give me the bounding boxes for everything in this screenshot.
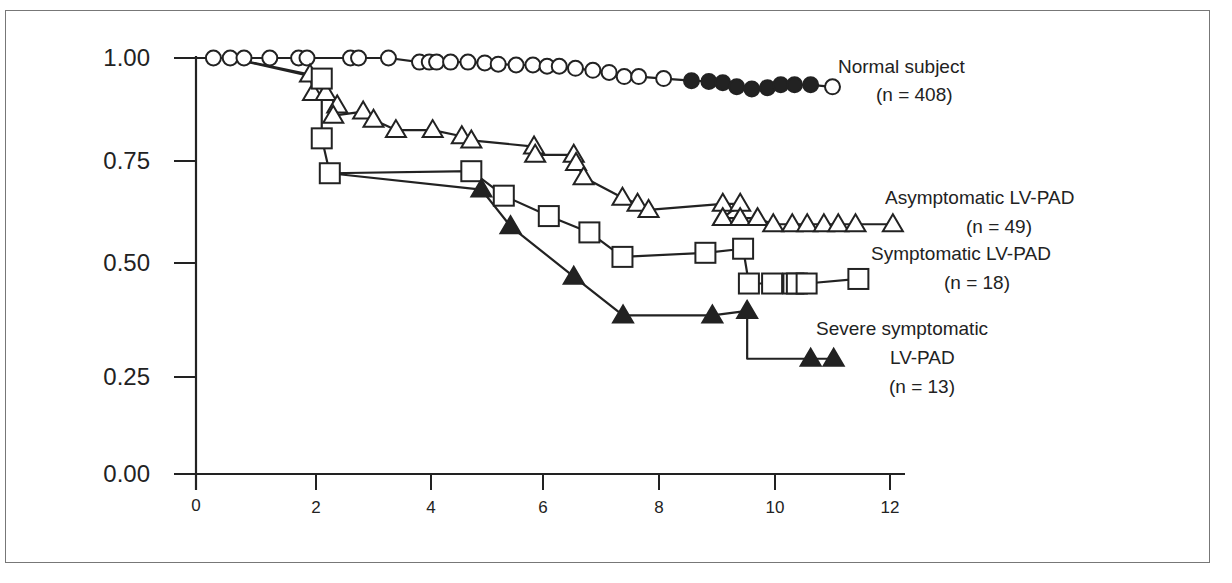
label-severe-n: (n = 13) bbox=[889, 376, 955, 398]
open-square-marker bbox=[695, 243, 715, 263]
open-circle-marker bbox=[223, 51, 238, 66]
open-circle-marker bbox=[585, 63, 600, 78]
filled-circle-marker bbox=[787, 77, 802, 92]
x-tick-label: 12 bbox=[870, 499, 910, 516]
open-square-marker bbox=[579, 222, 599, 242]
filled-triangle-marker bbox=[824, 349, 844, 366]
label-severe-name-line2: LV-PAD bbox=[890, 347, 955, 369]
open-square-marker bbox=[539, 206, 559, 226]
open-circle-marker bbox=[509, 58, 524, 73]
label-symptomatic-name: Symptomatic LV-PAD bbox=[871, 243, 1051, 265]
open-triangle-marker bbox=[828, 214, 848, 231]
filled-circle-marker bbox=[773, 77, 788, 92]
label-severe-name-line1: Severe symptomatic bbox=[816, 318, 988, 340]
x-tick-label: 6 bbox=[523, 499, 563, 516]
filled-triangle-marker bbox=[564, 267, 584, 284]
filled-circle-marker bbox=[803, 77, 818, 92]
label-normal-n: (n = 408) bbox=[876, 84, 953, 106]
open-circle-marker bbox=[552, 59, 567, 74]
open-circle-marker bbox=[206, 51, 221, 66]
filled-triangle-marker bbox=[801, 349, 821, 366]
filled-circle-marker bbox=[701, 74, 716, 89]
open-triangle-marker bbox=[612, 188, 632, 205]
open-triangle-marker bbox=[797, 214, 817, 231]
open-circle-marker bbox=[429, 55, 444, 70]
y-tick-label: 0.50 bbox=[40, 251, 150, 275]
label-asymptomatic-name: Asymptomatic LV-PAD bbox=[885, 187, 1074, 209]
x-tick-label: 0 bbox=[176, 497, 216, 514]
open-square-marker bbox=[848, 269, 868, 289]
open-circle-marker bbox=[300, 51, 315, 66]
x-tick-label: 2 bbox=[296, 499, 336, 516]
open-triangle-marker bbox=[846, 214, 866, 231]
y-tick-label: 0.25 bbox=[40, 365, 150, 389]
open-square-marker bbox=[797, 274, 817, 294]
open-triangle-marker bbox=[386, 120, 406, 137]
open-square-marker bbox=[733, 239, 753, 259]
filled-triangle-marker bbox=[737, 301, 757, 318]
filled-circle-marker bbox=[744, 81, 759, 96]
open-circle-marker bbox=[568, 61, 583, 76]
curve-severe bbox=[330, 173, 834, 359]
open-square-marker bbox=[762, 274, 782, 294]
survival-plot bbox=[0, 0, 1232, 583]
y-tick-label: 1.00 bbox=[40, 46, 150, 70]
open-circle-marker bbox=[602, 65, 617, 80]
x-tick-label: 8 bbox=[639, 499, 679, 516]
x-tick-label: 10 bbox=[755, 499, 795, 516]
label-asymptomatic-n: (n = 49) bbox=[966, 216, 1032, 238]
open-circle-marker bbox=[381, 51, 396, 66]
open-square-marker bbox=[461, 161, 481, 181]
open-circle-marker bbox=[525, 58, 540, 73]
open-circle-marker bbox=[237, 51, 252, 66]
open-circle-marker bbox=[825, 79, 840, 94]
open-circle-marker bbox=[617, 69, 632, 84]
open-circle-marker bbox=[656, 71, 671, 86]
label-symptomatic-n: (n = 18) bbox=[944, 272, 1010, 294]
open-triangle-marker bbox=[883, 214, 903, 231]
open-square-marker bbox=[494, 186, 514, 206]
x-tick-label: 4 bbox=[411, 499, 451, 516]
open-circle-marker bbox=[262, 51, 277, 66]
open-circle-marker bbox=[351, 51, 366, 66]
curves bbox=[196, 51, 903, 366]
filled-circle-marker bbox=[715, 75, 730, 90]
open-square-marker bbox=[312, 128, 332, 148]
filled-triangle-marker bbox=[613, 305, 633, 322]
open-circle-marker bbox=[631, 69, 646, 84]
open-circle-marker bbox=[443, 55, 458, 70]
y-tick-label: 0.75 bbox=[40, 149, 150, 173]
open-triangle-marker bbox=[423, 120, 443, 137]
label-normal-name: Normal subject bbox=[838, 56, 965, 78]
filled-circle-marker bbox=[684, 73, 699, 88]
open-square-marker bbox=[739, 274, 759, 294]
filled-circle-marker bbox=[729, 79, 744, 94]
open-circle-marker bbox=[460, 55, 475, 70]
open-square-marker bbox=[320, 163, 340, 183]
y-tick-label: 0.00 bbox=[40, 462, 150, 486]
open-square-marker bbox=[612, 247, 632, 267]
open-circle-marker bbox=[491, 57, 506, 72]
open-square-marker bbox=[312, 69, 332, 89]
